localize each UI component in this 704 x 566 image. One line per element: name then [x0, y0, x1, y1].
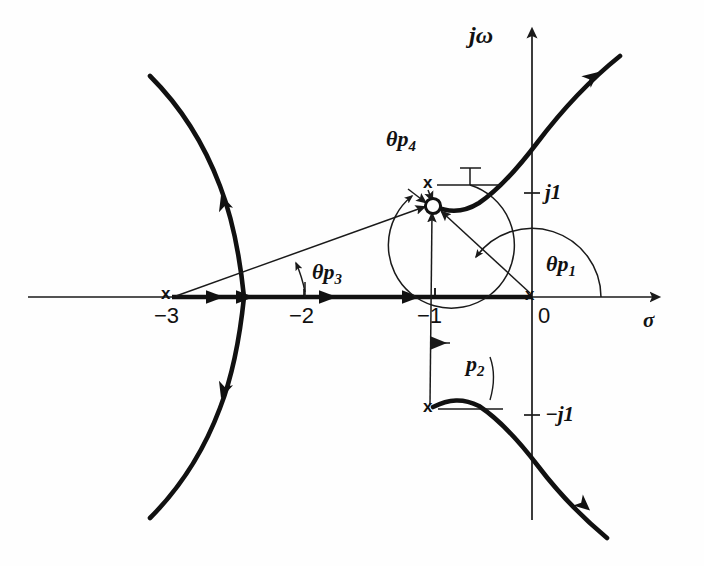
branch-upper-left: [150, 76, 244, 297]
locus-arrow-left-3: [402, 290, 420, 304]
vector-from-pole-minus3: [176, 207, 424, 296]
pole-marker-origin: x: [525, 285, 534, 305]
tick-label-j1: j1: [545, 180, 561, 205]
theta-subsub-p3: 3: [334, 271, 341, 287]
root-locus-canvas: [0, 0, 704, 566]
branch-lower-right: [433, 400, 607, 538]
theta-subsub-p1: 1: [568, 263, 575, 279]
angle-label-theta-p1: θp1: [546, 251, 576, 280]
pole-marker-minus1-plus-j1: x: [423, 173, 432, 193]
pole-marker-minus1-minus-j1: x: [423, 397, 432, 417]
theta-sub-p4: p: [397, 126, 408, 151]
origin-label: 0: [538, 303, 550, 329]
tick-label-minus-j1: −j1: [545, 402, 574, 427]
arc-theta-p3: [296, 263, 305, 292]
tick-label-minus-3: −3: [154, 303, 179, 329]
real-axis-label: σ: [643, 308, 654, 333]
arc-theta-p4: [388, 185, 514, 308]
pole-label-p2: p2: [466, 351, 484, 380]
tick-label-minus-2: −2: [289, 303, 314, 329]
arc-theta-p1: [476, 228, 601, 297]
theta-subsub-p4: 4: [408, 138, 415, 154]
leader-line-p2: [490, 357, 493, 400]
theta-sub-p1: p: [557, 251, 568, 276]
theta-sub-p3: p: [323, 259, 334, 284]
vector-from-pole-origin: [442, 212, 530, 293]
angle-label-theta-p4: θp4: [386, 126, 416, 155]
locus-arrow-left-2: [319, 290, 337, 304]
imaginary-axis-label: jω: [469, 22, 493, 49]
pole-marker-minus3: x: [161, 284, 170, 304]
theta-glyph-p4: θ: [386, 126, 397, 151]
pole-label-p2-base: p: [466, 351, 477, 376]
tick-label-minus-1: −1: [417, 303, 442, 329]
theta-glyph-p3: θ: [312, 259, 323, 284]
branch-lower-left: [150, 297, 244, 518]
angle-label-theta-p3: θp3: [312, 259, 342, 288]
test-point-marker: [425, 198, 440, 213]
pole-label-p2-sub: 2: [477, 363, 484, 379]
locus-arrow-left-1: [206, 290, 224, 304]
theta-glyph-p1: θ: [546, 251, 557, 276]
branch-arrow-upper-right: [581, 66, 603, 88]
root-locus-figure: x x x x jω σ −3 −2 −1 0 j1 −j1 θp1 θp3 θ…: [0, 0, 704, 566]
